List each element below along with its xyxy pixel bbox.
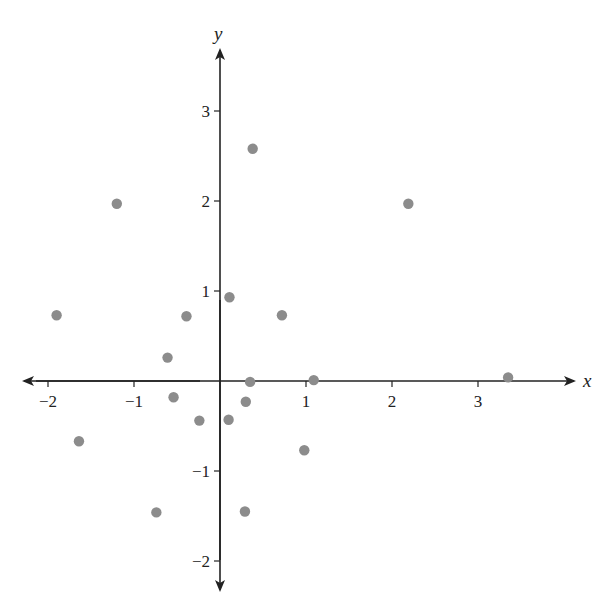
axes <box>24 50 574 590</box>
data-point <box>224 292 234 302</box>
data-point <box>51 310 61 320</box>
x-tick-label: 2 <box>388 392 397 411</box>
data-point <box>181 311 191 321</box>
x-tick-label: −1 <box>125 392 143 411</box>
x-tick-label: −2 <box>39 392 57 411</box>
y-tick-label: −1 <box>192 462 210 481</box>
data-point <box>403 199 413 209</box>
data-point <box>503 372 513 382</box>
x-tick-label: 3 <box>474 392 483 411</box>
data-point <box>247 144 257 154</box>
data-point <box>277 310 287 320</box>
data-point <box>194 415 204 425</box>
y-tick-label: 1 <box>202 282 211 301</box>
data-point <box>151 507 161 517</box>
data-point <box>309 375 319 385</box>
data-points <box>51 144 513 518</box>
data-point <box>299 445 309 455</box>
y-tick-label: −2 <box>192 552 210 571</box>
y-axis-label: y <box>212 23 223 44</box>
data-point <box>74 436 84 446</box>
scatter-plot: −2−1123−2−1123 x y <box>0 0 608 609</box>
data-point <box>241 397 251 407</box>
data-point <box>112 199 122 209</box>
data-point <box>168 392 178 402</box>
data-point <box>223 415 233 425</box>
ticks: −2−1123−2−1123 <box>39 102 482 571</box>
data-point <box>245 377 255 387</box>
y-tick-label: 3 <box>202 102 211 121</box>
x-axis-label: x <box>582 370 592 391</box>
x-tick-label: 1 <box>302 392 311 411</box>
data-point <box>240 506 250 516</box>
data-point <box>162 352 172 362</box>
y-tick-label: 2 <box>202 192 211 211</box>
